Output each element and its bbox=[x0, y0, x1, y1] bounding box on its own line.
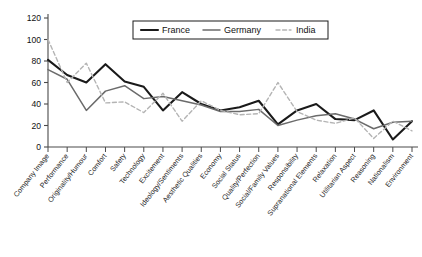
series-group bbox=[48, 40, 412, 140]
series-line-india bbox=[48, 40, 412, 139]
y-axis-tick-label: 100 bbox=[27, 35, 42, 45]
legend-label-germany: Germany bbox=[224, 25, 262, 35]
y-axis-tick-label: 0 bbox=[36, 142, 41, 152]
line-chart: 020406080100120Company ImagePerformanceO… bbox=[0, 0, 422, 257]
series-line-germany bbox=[48, 70, 412, 129]
legend: FranceGermanyIndia bbox=[133, 21, 328, 39]
series-line-france bbox=[48, 60, 412, 140]
legend-label-france: France bbox=[162, 25, 190, 35]
y-axis-tick-label: 80 bbox=[31, 56, 41, 66]
y-axis-tick-label: 120 bbox=[27, 13, 42, 23]
x-axis-tick-label: Comfort bbox=[86, 152, 109, 178]
chart-canvas: 020406080100120Company ImagePerformanceO… bbox=[0, 0, 422, 257]
legend-label-india: India bbox=[296, 25, 316, 35]
y-axis-tick-label: 60 bbox=[31, 78, 41, 88]
y-axis-tick-label: 40 bbox=[31, 99, 41, 109]
y-axis-tick-label: 20 bbox=[31, 121, 41, 131]
